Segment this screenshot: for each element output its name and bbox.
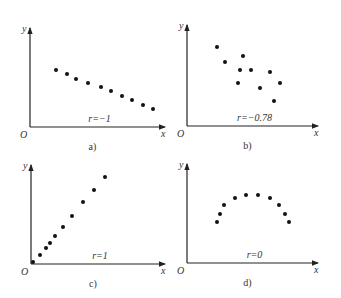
- data-point: [86, 81, 90, 85]
- scatter-panel-b: yxOr=−0.78b): [177, 20, 319, 152]
- panel-caption: a): [89, 141, 97, 153]
- scatter-panel-d: yxOr=0d): [177, 159, 319, 289]
- data-point: [249, 68, 253, 72]
- y-axis-label: y: [178, 20, 184, 31]
- data-point: [81, 200, 85, 204]
- scatter-panel-c: yxOr=1c): [21, 160, 166, 290]
- panel-caption: b): [243, 140, 251, 152]
- panel-caption: c): [89, 278, 97, 290]
- data-point: [241, 54, 245, 58]
- data-point: [233, 196, 237, 200]
- x-axis-label: x: [313, 127, 319, 138]
- data-point: [277, 203, 281, 207]
- data-point: [92, 188, 96, 192]
- data-point: [268, 70, 272, 74]
- data-point: [48, 241, 52, 245]
- data-point: [141, 103, 145, 107]
- data-point: [223, 60, 227, 64]
- data-point: [99, 85, 103, 89]
- data-point: [70, 214, 74, 218]
- data-point: [120, 94, 124, 98]
- origin-label: O: [21, 266, 28, 277]
- data-point: [215, 220, 219, 224]
- data-point: [44, 246, 48, 250]
- origin-label: O: [177, 128, 184, 139]
- y-axis-label: y: [178, 159, 184, 170]
- correlation-label: r=−1: [88, 113, 110, 124]
- data-point: [215, 45, 219, 49]
- data-point: [236, 81, 240, 85]
- data-point: [31, 260, 35, 264]
- data-point: [65, 72, 69, 76]
- panel-caption: d): [243, 277, 251, 289]
- data-point: [222, 203, 226, 207]
- data-point: [151, 107, 155, 111]
- correlation-label: r=−0.78: [237, 112, 272, 123]
- data-point: [74, 77, 78, 81]
- y-axis-label: y: [22, 160, 28, 171]
- origin-label: O: [20, 129, 27, 140]
- x-axis-label: x: [313, 264, 319, 275]
- data-point: [53, 234, 57, 238]
- data-point: [109, 89, 113, 93]
- y-axis-label: y: [21, 23, 27, 34]
- data-point: [38, 253, 42, 257]
- data-point: [258, 86, 262, 90]
- correlation-scatter-figure: yxOr=−1a)yxOr=−0.78b)yxOr=1c)yxOr=0d): [0, 0, 341, 298]
- origin-label: O: [177, 265, 184, 276]
- x-axis-label: x: [160, 128, 166, 139]
- data-point: [268, 196, 272, 200]
- data-point: [244, 193, 248, 197]
- data-point: [61, 225, 65, 229]
- data-point: [238, 68, 242, 72]
- x-axis-label: x: [160, 265, 166, 276]
- correlation-label: r=0: [247, 249, 263, 260]
- data-point: [256, 193, 260, 197]
- correlation-label: r=1: [92, 250, 108, 261]
- data-point: [283, 212, 287, 216]
- data-point: [103, 175, 107, 179]
- data-point: [272, 99, 276, 103]
- data-point: [54, 68, 58, 72]
- data-point: [278, 81, 282, 85]
- data-point: [287, 220, 291, 224]
- data-point: [218, 212, 222, 216]
- data-point: [130, 98, 134, 102]
- scatter-panels: yxOr=−1a)yxOr=−0.78b)yxOr=1c)yxOr=0d): [20, 20, 319, 290]
- scatter-panel-a: yxOr=−1a): [20, 23, 166, 153]
